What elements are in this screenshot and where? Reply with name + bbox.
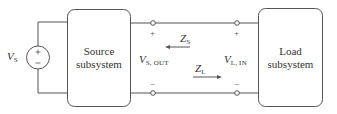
- load-label-line2: subsystem: [258, 58, 323, 71]
- load-label-line1: Load: [258, 45, 323, 58]
- terminal-load-minus-icon: [235, 91, 240, 96]
- source-impedance-label: ZS: [180, 33, 190, 46]
- load-impedance-subscript: L: [201, 68, 205, 76]
- terminal-source-minus-icon: [151, 91, 156, 96]
- source-impedance-subscript: S: [186, 38, 190, 46]
- terminal-source-plus-icon: [151, 21, 156, 26]
- source-voltage-label: VS: [7, 51, 18, 64]
- source-label-line2: subsystem: [67, 58, 131, 71]
- output-voltage-symbol: V: [139, 53, 146, 65]
- voltage-source-icon: [27, 46, 50, 69]
- arrow-left-icon: [165, 45, 170, 49]
- input-voltage-label: VL, IN: [224, 54, 247, 67]
- output-voltage-subscript: S, OUT: [146, 59, 169, 67]
- load-in-minus-sign: −: [234, 80, 239, 89]
- source-label-line1: Source: [67, 45, 131, 58]
- source-out-plus-sign: +: [150, 29, 155, 38]
- source-voltage-subscript: S: [14, 56, 18, 64]
- load-in-plus-sign: +: [234, 29, 239, 38]
- output-voltage-label: VS, OUT: [139, 54, 169, 67]
- input-voltage-symbol: V: [224, 53, 231, 65]
- load-subsystem-label: Load subsystem: [258, 45, 323, 71]
- source-out-minus-sign: −: [150, 80, 155, 89]
- terminal-load-plus-icon: [235, 21, 240, 26]
- arrow-right-icon: [217, 75, 222, 79]
- input-voltage-subscript: L, IN: [231, 59, 247, 67]
- load-impedance-label: ZL: [195, 63, 206, 76]
- source-voltage-symbol: V: [7, 50, 14, 62]
- source-subsystem-label: Source subsystem: [67, 45, 131, 71]
